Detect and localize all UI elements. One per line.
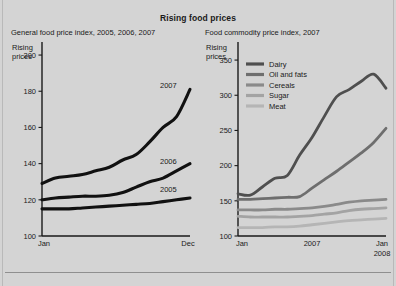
- bottom-divider: [5, 272, 391, 273]
- right-page-edge: [393, 0, 394, 286]
- y-tick-label: 250: [219, 126, 232, 135]
- figure-title: Rising food prices: [0, 13, 396, 23]
- legend-item-oil-and-fats: Oil and fats: [246, 70, 307, 79]
- legend-label: Meat: [269, 102, 287, 111]
- y-tick-label: 200: [219, 161, 232, 170]
- x-tick-label-end: Dec: [181, 239, 195, 248]
- left-chart-panel: 100120140160180200JanDec200720062005: [8, 40, 198, 275]
- series-line-meat: [238, 218, 386, 227]
- y-tick-label: 100: [219, 232, 232, 241]
- chart-figure: Rising food prices General food price in…: [0, 0, 396, 286]
- y-tick-label: 150: [219, 197, 232, 206]
- legend-label: Oil and fats: [269, 70, 307, 79]
- series-line-2005: [42, 198, 190, 209]
- general-food-price-index-plot: 100120140160180200JanDec200720062005: [8, 40, 198, 275]
- legend-item-meat: Meat: [246, 102, 287, 111]
- y-tick-label: 140: [23, 159, 36, 168]
- x-tick-label-2008: 2008: [374, 249, 391, 258]
- x-tick-label-jan-2007: Jan: [236, 239, 248, 248]
- y-tick-label: 180: [23, 87, 36, 96]
- series-annotation-2005: 2005: [160, 185, 177, 194]
- right-chart-panel: 100150200250300350Jan2007Jan2008DairyOil…: [200, 40, 392, 275]
- legend-label: Cereals: [269, 81, 295, 90]
- x-tick-label-jan: Jan: [376, 239, 388, 248]
- y-tick-label: 120: [23, 196, 36, 205]
- legend-item-dairy: Dairy: [246, 60, 287, 69]
- series-annotation-2006: 2006: [160, 157, 177, 166]
- right-panel-subtitle: Food commodity price index, 2007: [205, 28, 320, 37]
- legend-item-sugar: Sugar: [246, 91, 290, 100]
- legend-label: Sugar: [269, 91, 290, 100]
- series-line-dairy: [238, 74, 386, 196]
- legend-label: Dairy: [269, 60, 287, 69]
- y-tick-label: 160: [23, 123, 36, 132]
- series-annotation-2007: 2007: [160, 81, 177, 90]
- left-panel-subtitle: General food price index, 2005, 2006, 20…: [11, 28, 155, 37]
- y-tick-label: 350: [219, 56, 232, 65]
- y-tick-label: 200: [23, 51, 36, 60]
- x-tick-label-start: Jan: [38, 239, 50, 248]
- left-page-edge: [2, 0, 3, 286]
- food-commodity-price-index-plot: 100150200250300350Jan2007Jan2008DairyOil…: [200, 40, 392, 275]
- y-tick-label: 100: [23, 232, 36, 241]
- series-line-2007: [42, 89, 190, 183]
- legend-item-cereals: Cereals: [246, 81, 295, 90]
- series-line-2006: [42, 164, 190, 200]
- x-tick-label-2007: 2007: [304, 239, 321, 248]
- y-tick-label: 300: [219, 91, 232, 100]
